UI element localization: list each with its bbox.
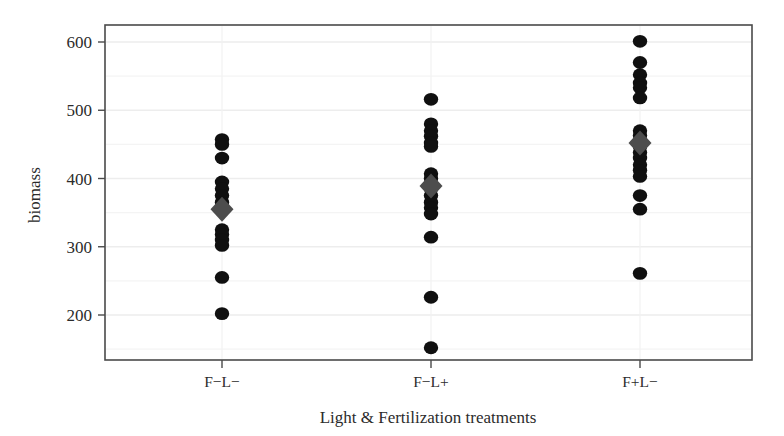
- data-point: [424, 140, 438, 153]
- x-tick-label: F−L+: [413, 373, 449, 390]
- chart-figure: 200300400500600 F−L−F−L+F+L− biomass Lig…: [0, 0, 784, 436]
- data-point: [633, 56, 647, 69]
- x-axis-title: Light & Fertilization treatments: [320, 408, 537, 427]
- y-axis-ticks: 200300400500600: [67, 33, 106, 325]
- data-point: [633, 203, 647, 216]
- x-tick-label: F+L−: [622, 373, 658, 390]
- data-point: [424, 231, 438, 244]
- data-point: [424, 93, 438, 106]
- data-point: [424, 341, 438, 354]
- y-axis-title: biomass: [25, 167, 44, 223]
- y-tick-label: 400: [67, 170, 93, 189]
- data-point: [633, 92, 647, 105]
- data-point: [424, 208, 438, 221]
- data-point: [633, 170, 647, 183]
- x-axis-ticks: F−L−F−L+F+L−: [204, 360, 658, 390]
- strip-plot-svg: 200300400500600 F−L−F−L+F+L− biomass Lig…: [0, 0, 784, 436]
- data-point: [633, 189, 647, 202]
- y-tick-label: 200: [67, 306, 93, 325]
- data-point: [215, 152, 229, 165]
- data-point: [633, 35, 647, 48]
- data-point: [215, 307, 229, 320]
- y-tick-label: 500: [67, 101, 93, 120]
- y-tick-label: 600: [67, 33, 93, 52]
- x-tick-label: F−L−: [204, 373, 240, 390]
- data-point: [633, 267, 647, 280]
- data-point: [424, 291, 438, 304]
- data-point: [215, 239, 229, 252]
- y-tick-label: 300: [67, 238, 93, 257]
- data-point: [215, 138, 229, 151]
- data-point: [215, 271, 229, 284]
